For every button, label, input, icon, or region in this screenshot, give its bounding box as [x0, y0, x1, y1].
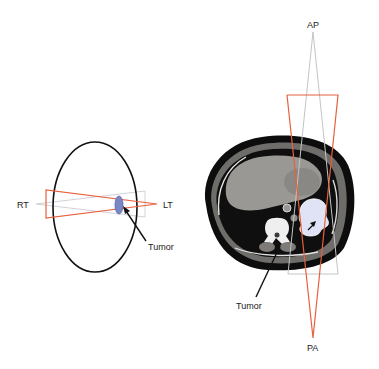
ct-mediastinum	[284, 168, 320, 196]
label-ap: AP	[307, 20, 319, 30]
label-pa: PA	[307, 343, 318, 353]
body-outline	[53, 142, 137, 272]
figure-canvas: RT LT Tumor	[0, 0, 379, 369]
ct-paraspinal-right	[280, 242, 296, 252]
ct-spinal-canal	[275, 233, 280, 238]
label-tumor-right: Tumor	[236, 301, 262, 311]
tumor-marker	[115, 196, 123, 214]
ct-paraspinal-left	[259, 242, 275, 252]
ct-aorta	[283, 204, 291, 212]
label-lt: LT	[163, 200, 173, 210]
label-rt: RT	[17, 200, 29, 210]
red-beam-lateral	[46, 190, 157, 218]
left-diagram: RT LT Tumor	[17, 142, 174, 272]
label-tumor-left: Tumor	[148, 242, 174, 252]
